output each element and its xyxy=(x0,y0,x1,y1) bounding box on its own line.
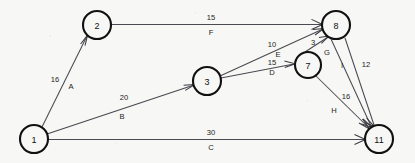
arrowhead-1-2 xyxy=(81,35,88,45)
edge-activity-1-2: A xyxy=(68,82,74,91)
node-label-7: 7 xyxy=(305,61,310,71)
node-label-11: 11 xyxy=(374,135,383,145)
node-1[interactable]: 1 xyxy=(20,125,48,153)
edge-duration-3-7: 15 xyxy=(268,58,276,67)
node-2[interactable]: 2 xyxy=(83,11,111,39)
edge-line-8-11-i xyxy=(331,39,371,126)
edge-activity-3-7: D xyxy=(269,68,275,77)
edge-duration-8-11-12: 12 xyxy=(362,60,370,69)
edge-activity-1-3: B xyxy=(119,112,124,121)
edge-activity-1-11: C xyxy=(208,143,214,152)
edge-activity-7-11: H xyxy=(331,106,336,115)
node-label-3: 3 xyxy=(204,77,209,87)
edge-activity-2-8: F xyxy=(209,28,214,37)
edge-duration-7-8: 3 xyxy=(311,38,315,47)
node-11[interactable]: 11 xyxy=(365,125,393,153)
edge-line-1-2 xyxy=(42,36,87,127)
edge-duration-7-11: 16 xyxy=(342,92,350,101)
node-label-8: 8 xyxy=(333,21,338,31)
node-7[interactable]: 7 xyxy=(295,52,321,78)
edge-3-to-7 xyxy=(221,61,295,78)
edge-8-to-11-duration-12 xyxy=(345,38,375,127)
edge-duration-1-11: 30 xyxy=(207,128,215,137)
node-label-1: 1 xyxy=(31,135,36,145)
edge-line-8-11-12 xyxy=(345,38,374,125)
node-3[interactable]: 3 xyxy=(193,67,221,95)
network-diagram: 16 A 20 B 30 C 15 F 10 E 15 D 3 G 16 H I… xyxy=(0,0,415,163)
edge-duration-2-8: 15 xyxy=(207,13,215,22)
edge-duration-1-2: 16 xyxy=(51,75,59,84)
edge-line-7-11 xyxy=(316,76,369,128)
edge-2-to-8 xyxy=(111,19,323,29)
edge-duration-1-3: 20 xyxy=(120,93,128,102)
edge-activity-7-8: G xyxy=(324,48,330,57)
edge-activity-8-11-i: I xyxy=(341,61,343,70)
edge-8-to-11-activity-i xyxy=(331,39,372,127)
node-8[interactable]: 8 xyxy=(322,11,350,39)
edge-duration-3-8: 10 xyxy=(268,40,276,49)
edge-7-to-11 xyxy=(316,76,370,129)
network-diagram-canvas: 16 A 20 B 30 C 15 F 10 E 15 D 3 G 16 H I… xyxy=(0,0,415,163)
node-label-2: 2 xyxy=(94,21,99,31)
edge-1-to-2 xyxy=(42,35,88,127)
